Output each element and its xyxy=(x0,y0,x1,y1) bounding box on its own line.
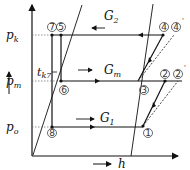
state-dot-4 xyxy=(161,33,164,36)
tk7-label: tk7 xyxy=(37,66,52,80)
h-axis-label: h xyxy=(118,157,126,170)
pk-flow-arrow xyxy=(138,33,143,38)
svg-text:3: 3 xyxy=(141,85,147,95)
state-dot-2 xyxy=(163,79,166,82)
g1-label: G1 xyxy=(100,111,115,127)
svg-text:4: 4 xyxy=(161,22,167,32)
state-label-3: 3 xyxy=(140,85,149,95)
svg-text:7: 7 xyxy=(49,22,55,32)
po-flow-arrow xyxy=(90,125,95,130)
state-label-6: 6 xyxy=(60,85,69,95)
state-dot-5 xyxy=(59,33,62,36)
po-label: po xyxy=(6,120,19,136)
state-dot-1 xyxy=(141,124,144,127)
pm-flow-arrow xyxy=(95,79,100,84)
compression-3-4 xyxy=(138,35,163,81)
svg-text:8: 8 xyxy=(49,128,55,138)
svg-text:5: 5 xyxy=(58,22,64,32)
gm-label: Gm xyxy=(104,63,122,79)
svg-text:2: 2 xyxy=(175,69,181,79)
ph-diagram: pk pm po h tk7 G2 Gm G1 7 5 6 8 3 1 2 xyxy=(0,0,190,170)
state-label-4-prime: 4 ' xyxy=(172,17,185,32)
state-dot-6 xyxy=(59,79,62,82)
svg-text:1: 1 xyxy=(145,128,151,138)
svg-text:4: 4 xyxy=(173,22,179,32)
svg-text:': ' xyxy=(184,64,186,72)
g2-label: G2 xyxy=(104,9,119,25)
state-dot-7 xyxy=(50,33,53,36)
state-label-7: 7 xyxy=(48,22,57,32)
svg-text:2: 2 xyxy=(162,69,168,79)
isentropic-3-4prime xyxy=(138,35,174,81)
state-label-2: 2 xyxy=(161,69,170,79)
state-label-5: 5 xyxy=(57,22,66,32)
svg-text:': ' xyxy=(182,17,184,25)
svg-text:6: 6 xyxy=(61,85,67,95)
pm-label: pm xyxy=(6,74,22,90)
state-label-8: 8 xyxy=(48,128,57,138)
state-label-2-prime: 2 ' xyxy=(174,64,187,79)
pk-label: pk xyxy=(6,28,19,44)
state-label-1: 1 xyxy=(144,128,153,138)
state-label-4: 4 xyxy=(160,22,169,32)
